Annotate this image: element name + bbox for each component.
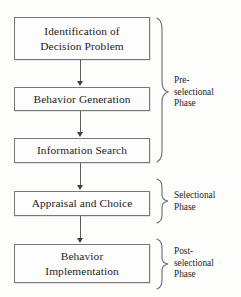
brace-post-selectional xyxy=(155,238,169,290)
stage-label-line: Behavior Generation xyxy=(33,92,130,107)
arrowhead-icon-3 xyxy=(77,185,83,190)
stage-label-line: Implementation xyxy=(45,264,119,279)
stage-label-line: Information Search xyxy=(37,143,127,158)
stage-label-line: Appraisal and Choice xyxy=(32,196,133,211)
brace-selectional xyxy=(155,178,169,224)
connector-arrow-3 xyxy=(80,163,81,186)
phase-label-post-selectional: Post- selectional Phase xyxy=(174,246,240,281)
stage-label-line: Identification of xyxy=(44,24,119,39)
stage-box-information-search[interactable]: Information Search xyxy=(14,138,150,163)
stage-box-appraisal-and-choice[interactable]: Appraisal and Choice xyxy=(14,191,150,216)
connector-arrow-2 xyxy=(80,111,81,133)
arrowhead-icon-1 xyxy=(77,81,83,86)
phase-label-line: selectional xyxy=(174,258,240,270)
phase-label-line: Phase xyxy=(174,98,240,110)
phase-label-line: selectional xyxy=(174,87,240,99)
phase-label-pre-selectional: Pre- selectional Phase xyxy=(174,75,240,110)
stage-box-behavior-generation[interactable]: Behavior Generation xyxy=(14,87,150,111)
arrowhead-icon-2 xyxy=(77,132,83,137)
stage-label-line: Decision Problem xyxy=(40,39,124,54)
phase-label-line: Phase xyxy=(174,202,240,214)
brace-pre-selectional xyxy=(155,17,169,163)
phase-label-line: Pre- xyxy=(174,75,240,87)
phase-label-line: Post- xyxy=(174,246,240,258)
stage-box-identification-of-decision-problem[interactable]: Identification of Decision Problem xyxy=(14,17,150,60)
phase-label-line: Selectional xyxy=(174,190,240,202)
stage-box-behavior-implementation[interactable]: Behavior Implementation xyxy=(14,244,150,283)
stage-label-line: Behavior xyxy=(61,249,104,264)
phase-label-line: Phase xyxy=(174,269,240,281)
phase-label-selectional: Selectional Phase xyxy=(174,190,240,213)
connector-arrow-4 xyxy=(80,216,81,239)
arrowhead-icon-4 xyxy=(77,238,83,243)
connector-arrow-1 xyxy=(80,60,81,82)
decision-phase-flowchart: Identification of Decision Problem Behav… xyxy=(0,0,241,297)
